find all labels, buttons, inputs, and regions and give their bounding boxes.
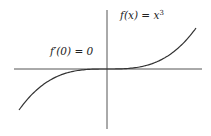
function-label-base: f(x) = x [120, 9, 159, 21]
function-label-exponent: 3 [159, 9, 163, 17]
function-plot [0, 0, 211, 136]
derivative-label: f′(0) = 0 [50, 46, 93, 57]
function-label: f(x) = x3 [120, 10, 164, 21]
